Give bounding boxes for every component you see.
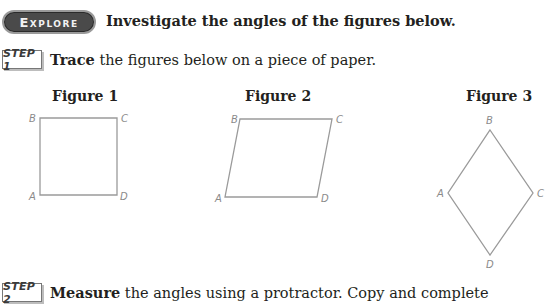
fig1-label-d: D (120, 191, 128, 202)
fig3-label-d: D (486, 259, 494, 270)
fig2-label-d: D (321, 193, 329, 204)
figure-3-rhombus (448, 130, 533, 255)
fig2-label-c: C (336, 114, 343, 125)
fig1-label-b: B (29, 113, 36, 124)
fig3-label-c: C (537, 188, 544, 199)
fig3-label-b: B (486, 115, 493, 126)
step-2-keyword: Measure (50, 284, 120, 301)
step-2-text: Measure the angles using a protractor. C… (50, 284, 489, 301)
fig1-label-a: A (28, 191, 36, 202)
figure-2-parallelogram (225, 119, 332, 197)
fig2-label-b: B (231, 114, 238, 125)
figure-1-square (40, 118, 117, 195)
fig3-label-a: A (436, 188, 444, 199)
fig1-label-c: C (121, 113, 128, 124)
step-2-badge: STEP 2 (2, 283, 42, 302)
step-2-body: the angles using a protractor. Copy and … (120, 285, 488, 301)
fig2-label-a: A (214, 193, 222, 204)
